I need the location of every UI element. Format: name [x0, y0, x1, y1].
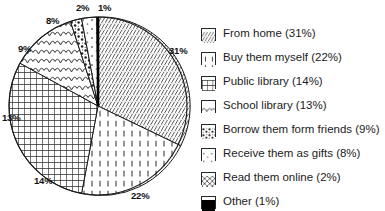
pie-chart-plot-area: 2%1%8%9%13%14%22%31% — [0, 0, 196, 211]
legend-item-label: Read them online (2%) — [223, 172, 341, 184]
legend-item[interactable]: School library (13%) — [201, 94, 385, 118]
pie-data-label: 8% — [46, 16, 59, 26]
legend-item-label: Buy them myself (22%) — [223, 52, 342, 64]
pie-slices — [9, 17, 190, 196]
legend-item[interactable]: Buy them myself (22%) — [201, 46, 385, 70]
legend-swatch-fish-scales-icon — [201, 100, 216, 113]
legend-item[interactable]: Receive them as gifts (8%) — [201, 142, 385, 166]
pie-chart-figure: 2%1%8%9%13%14%22%31% From home (31%)Buy … — [0, 0, 385, 211]
pie-data-label: 31% — [169, 46, 187, 56]
legend-swatch-diagonal-hatch-icon — [201, 28, 216, 41]
legend-item-label: From home (31%) — [223, 28, 316, 40]
pie-data-label: 14% — [34, 176, 52, 186]
legend-item[interactable]: Borrow them form friends (9%) — [201, 118, 385, 142]
legend-swatch-diagonal-cross-icon — [201, 172, 216, 185]
legend-swatch-sparse-dots-icon — [201, 148, 216, 161]
legend-item-label: Public library (14%) — [223, 76, 323, 88]
legend-item-label: Receive them as gifts (8%) — [223, 148, 360, 160]
legend-item[interactable]: Other (1%) — [201, 190, 385, 211]
legend-item-label: Borrow them form friends (9%) — [223, 124, 380, 136]
chart-legend: From home (31%)Buy them myself (22%)Publ… — [201, 22, 385, 211]
legend-swatch-dense-grid-icon — [201, 76, 216, 89]
legend-item[interactable]: Read them online (2%) — [201, 166, 385, 190]
pie-chart-svg — [0, 0, 196, 211]
legend-item-label: Other (1%) — [223, 196, 279, 208]
legend-item[interactable]: Public library (14%) — [201, 70, 385, 94]
legend-swatch-vertical-dashes-icon — [201, 52, 216, 65]
pie-data-label: 9% — [18, 44, 31, 54]
legend-swatch-dense-speckle-icon — [201, 124, 216, 137]
pie-data-label: 13% — [2, 113, 20, 123]
legend-item-label: School library (13%) — [223, 100, 327, 112]
legend-swatch-solid-black-icon — [201, 196, 216, 209]
pie-data-label: 1% — [98, 3, 111, 13]
pie-data-label: 2% — [76, 3, 89, 13]
legend-item[interactable]: From home (31%) — [201, 22, 385, 46]
pie-data-label: 22% — [131, 191, 149, 201]
